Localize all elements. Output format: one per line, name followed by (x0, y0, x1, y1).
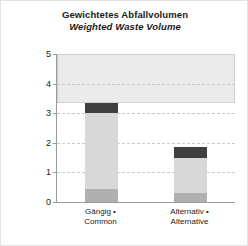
plot-shaded-band (57, 54, 235, 103)
y-tick-mark (53, 113, 57, 114)
bar[interactable] (174, 147, 207, 202)
y-tick-mark (53, 84, 57, 85)
x-category-label-line: Alternative (145, 217, 234, 227)
y-tick-label: 1 (46, 167, 51, 177)
chart-title-block: Gewichtetes Abfallvolumen Weighted Waste… (1, 9, 248, 33)
plot-area: 012345 (56, 54, 235, 203)
gridline (57, 143, 235, 144)
y-tick-mark (53, 202, 57, 203)
chart-figure: Gewichtetes Abfallvolumen Weighted Waste… (0, 0, 248, 246)
y-tick-mark (53, 54, 57, 55)
y-tick-label: 5 (46, 49, 51, 59)
bar-segment-dark-cap (174, 147, 207, 157)
gridline (57, 172, 235, 173)
bar-segment-base-segment (85, 189, 118, 202)
bar[interactable] (85, 103, 118, 202)
x-category-label: Gängig •Common (56, 207, 145, 227)
y-tick-label: 3 (46, 108, 51, 118)
bar-segment-light-segment (85, 113, 118, 188)
y-tick-label: 4 (46, 79, 51, 89)
y-tick-mark (53, 172, 57, 173)
gridline (57, 84, 235, 85)
x-category-label-line: Common (56, 217, 145, 227)
gridline (57, 113, 235, 114)
bar-segment-base-segment (174, 193, 207, 202)
y-tick-label: 0 (46, 197, 51, 207)
bar-segment-dark-cap (85, 103, 118, 113)
chart-title-english: Weighted Waste Volume (1, 21, 248, 33)
x-category-label: Alternativ •Alternative (145, 207, 234, 227)
y-tick-mark (53, 143, 57, 144)
x-category-label-line: Gängig • (56, 207, 145, 217)
bar-segment-light-segment (174, 158, 207, 194)
y-tick-label: 2 (46, 138, 51, 148)
x-category-label-line: Alternativ • (145, 207, 234, 217)
chart-title-german: Gewichtetes Abfallvolumen (1, 9, 248, 21)
